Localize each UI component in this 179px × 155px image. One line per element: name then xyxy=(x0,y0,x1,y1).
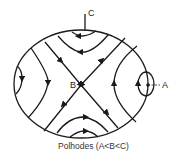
label-b: B xyxy=(70,81,76,90)
polhode-a-right-outer xyxy=(114,46,137,122)
polhode-diagram xyxy=(0,0,179,155)
label-c: C xyxy=(88,9,95,18)
polhode-c-outer xyxy=(58,35,108,52)
polhode-a-left-outer xyxy=(28,48,48,118)
polhode-c-bottom-inner xyxy=(70,131,98,137)
polhode-a-inner-loop xyxy=(138,72,154,96)
polhode-a-left-inner xyxy=(16,66,22,94)
polhode-c-inner xyxy=(72,31,96,36)
caption: Polhodes (A<B<C) xyxy=(58,142,129,151)
label-a: A xyxy=(162,81,168,90)
a-axis-point xyxy=(146,83,150,87)
